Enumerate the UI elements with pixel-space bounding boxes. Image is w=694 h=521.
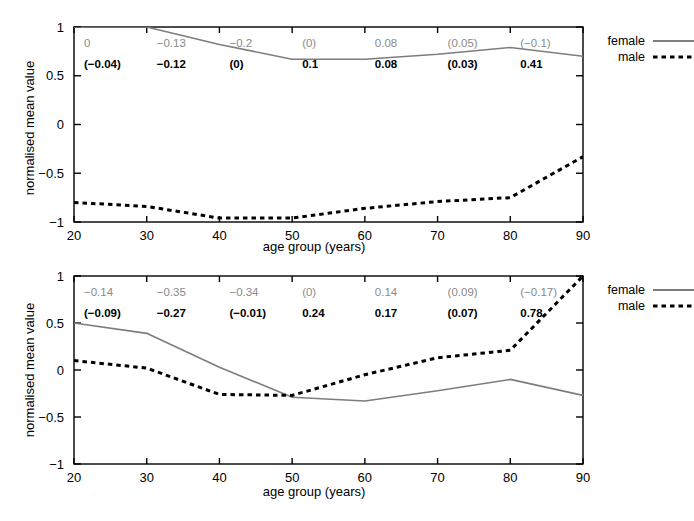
annotation-female: (0) (302, 286, 316, 298)
annotation-female: 0.14 (375, 286, 398, 298)
annotation-female: 0 (84, 37, 90, 49)
axes-frame (74, 27, 583, 222)
x-axis-label-bottom: age group (years) (0, 484, 661, 499)
series-line-male (74, 157, 583, 218)
x-tick-label: 60 (358, 470, 372, 485)
annotation-male: (−0.01) (229, 307, 266, 319)
y-tick-label: 0.5 (46, 68, 64, 83)
chart-panel-bottom: 2030405060708090−1−0.500.51−0.14(−0.09)−… (0, 252, 694, 521)
x-tick-label: 80 (503, 470, 517, 485)
annotation-male: 0.41 (520, 58, 543, 70)
annotation-male: −0.12 (157, 58, 186, 70)
x-tick-label: 30 (139, 470, 153, 485)
annotation-male: 0.78 (520, 307, 543, 319)
y-tick-label: 0 (57, 117, 64, 132)
annotation-male: (0.07) (448, 307, 478, 319)
figure-root: 2030405060708090−1−0.500.510(−0.04)−0.13… (0, 0, 694, 521)
y-tick-label: −0.5 (38, 410, 64, 425)
plot-series-group (74, 27, 583, 218)
x-tick-label: 20 (67, 470, 81, 485)
annotation-male: 0.24 (302, 307, 325, 319)
plot-series-group (74, 276, 583, 401)
annotation-male: (−0.04) (84, 58, 121, 70)
x-tick-label: 70 (430, 470, 444, 485)
y-tick-label: 1 (57, 20, 64, 35)
annotation-female: −0.14 (84, 286, 114, 298)
annotation-male: (0.03) (448, 58, 478, 70)
series-line-female (74, 27, 583, 59)
annotation-female: (0) (302, 37, 316, 49)
legend-label-female[interactable]: female (607, 34, 645, 48)
annotation-female: (−0.17) (520, 286, 557, 298)
annotation-female: −0.34 (229, 286, 259, 298)
y-tick-label: 1 (57, 269, 64, 284)
y-tick-label: −1 (49, 215, 64, 230)
chart-svg-bottom: 2030405060708090−1−0.500.51−0.14(−0.09)−… (0, 252, 694, 521)
legend-label-male[interactable]: male (618, 50, 645, 64)
annotation-female: 0.08 (375, 37, 397, 49)
annotation-female: (0.09) (448, 286, 478, 298)
y-axis-label-bottom: normalised mean value (22, 270, 37, 470)
y-tick-label: 0 (57, 363, 64, 378)
annotation-female: −0.13 (157, 37, 186, 49)
chart-svg-top: 2030405060708090−1−0.500.510(−0.04)−0.13… (0, 0, 694, 261)
y-tick-label: −1 (49, 457, 64, 472)
annotation-male: (−0.09) (84, 307, 121, 319)
annotation-male: −0.27 (157, 307, 186, 319)
annotation-female: (0.05) (448, 37, 478, 49)
series-line-female (74, 323, 583, 401)
annotation-male: 0.17 (375, 307, 397, 319)
y-tick-label: −0.5 (38, 166, 64, 181)
legend-label-male[interactable]: male (618, 299, 645, 313)
annotation-female: −0.2 (229, 37, 252, 49)
annotation-male: 0.1 (302, 58, 319, 70)
legend-label-female[interactable]: female (607, 283, 645, 297)
annotation-male: (0) (229, 58, 243, 70)
y-axis-label-top: normalised mean value (22, 28, 37, 228)
x-tick-label: 40 (212, 470, 226, 485)
annotation-female: (−0.1) (520, 37, 551, 49)
annotation-male: 0.08 (375, 58, 398, 70)
annotation-female: −0.35 (157, 286, 186, 298)
chart-panel-top: 2030405060708090−1−0.500.510(−0.04)−0.13… (0, 0, 694, 261)
y-tick-label: 0.5 (46, 316, 64, 331)
x-tick-label: 90 (576, 470, 590, 485)
x-tick-label: 50 (285, 470, 299, 485)
